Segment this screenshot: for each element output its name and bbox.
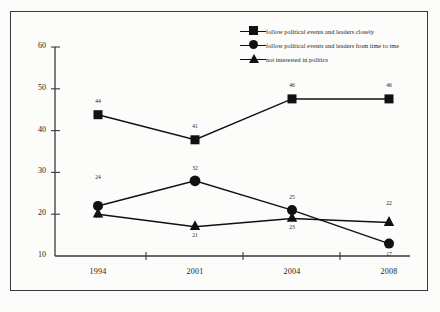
data-label-not-interested: 22 [380, 200, 398, 206]
data-label-closely: 46 [283, 82, 301, 88]
x-axis-tick-label: 2001 [175, 267, 215, 276]
data-label-time-to-time: 25 [283, 194, 301, 200]
chart-legend: follow political events and leaders clos… [240, 24, 430, 66]
circle-marker-icon [240, 39, 266, 51]
y-axis-tick-label: 40 [28, 125, 46, 134]
legend-item-not-interested[interactable]: not interested in politics [240, 52, 430, 66]
data-label-not-interested: 23 [283, 224, 301, 230]
x-axis-tick-label: 2008 [369, 267, 409, 276]
square-marker-icon [240, 25, 266, 37]
series-time-to-time [93, 175, 394, 248]
legend-item-label: not interested in politics [266, 56, 328, 63]
legend-item-time-to-time[interactable]: follow political events and leaders from… [240, 38, 430, 52]
data-point-marker [190, 220, 200, 230]
legend-item-label: follow political events and leaders clos… [266, 28, 374, 35]
chart-page: follow political events and leaders clos… [0, 0, 440, 312]
data-point-marker [190, 175, 201, 186]
data-point-marker [384, 216, 394, 226]
data-point-marker [191, 135, 200, 144]
series-not-interested [93, 208, 394, 230]
data-label-not-interested: 24 [89, 174, 107, 180]
data-label-closely: 46 [380, 82, 398, 88]
data-label-closely: 44 [89, 98, 107, 104]
y-axis-tick-label: 20 [28, 208, 46, 217]
y-axis-tick-label: 50 [28, 83, 46, 92]
data-label-time-to-time: 32 [186, 165, 204, 171]
data-point-marker [385, 94, 394, 103]
data-label-time-to-time: 17 [380, 251, 398, 257]
legend-item-label: follow political events and leaders from… [266, 42, 399, 49]
data-label-not-interested: 21 [186, 232, 204, 238]
legend-item-closely[interactable]: follow political events and leaders clos… [240, 24, 430, 38]
data-label-closely: 41 [186, 123, 204, 129]
data-point-marker [384, 239, 394, 249]
x-axis-tick-label: 2004 [272, 267, 312, 276]
x-axis-tick-label: 1994 [78, 267, 118, 276]
series-closely [94, 94, 394, 144]
triangle-marker-icon [240, 53, 266, 65]
y-axis-tick-label: 60 [28, 41, 46, 50]
y-axis-tick-label: 30 [28, 166, 46, 175]
data-point-marker [94, 110, 103, 119]
y-axis-tick-label: 10 [28, 250, 46, 259]
data-point-marker [288, 94, 297, 103]
data-label-time-to-time: 26 [89, 213, 107, 219]
